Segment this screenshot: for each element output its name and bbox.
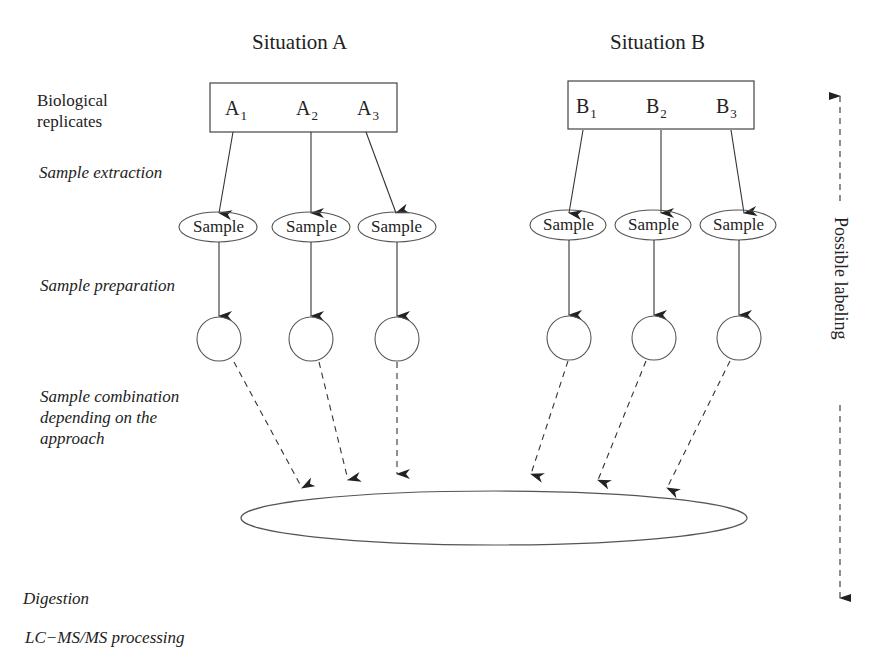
step-sample-combination: Sample combination depending on the appr… xyxy=(40,386,179,449)
sample-label-a2: Sample xyxy=(286,217,337,237)
sample-label-b1: Sample xyxy=(543,215,594,235)
step-biological-replicates: Biological replicates xyxy=(37,90,108,132)
situation-b-title: Situation B xyxy=(610,30,705,55)
replicate-a1: A1 xyxy=(225,97,247,124)
extraction-arrows-a xyxy=(219,132,396,213)
step-biological-replicates-line1: Biological xyxy=(37,90,108,111)
possible-labeling-label: Possible labeling xyxy=(830,217,851,340)
step-biological-replicates-line2: replicates xyxy=(37,111,108,132)
sample-label-a1: Sample xyxy=(193,217,244,237)
replicate-a2: A2 xyxy=(296,97,318,124)
step-lcms-processing: LC−MS/MS processing xyxy=(25,627,185,648)
diagram-canvas xyxy=(0,0,879,666)
step-digestion: Digestion xyxy=(23,588,89,609)
sample-ellipses xyxy=(179,210,776,242)
preparation-arrows xyxy=(219,240,739,316)
combination-arrows xyxy=(234,361,730,488)
prepared-sample-circles xyxy=(197,316,761,361)
situation-a-title: Situation A xyxy=(252,30,347,55)
replicate-a3: A3 xyxy=(357,97,379,124)
extraction-arrows-b xyxy=(569,130,744,213)
replicate-b3: B3 xyxy=(716,95,737,122)
replicate-b1: B1 xyxy=(576,95,597,122)
sample-label-a3: Sample xyxy=(371,217,422,237)
sample-label-b3: Sample xyxy=(713,215,764,235)
combined-sample-ellipse xyxy=(241,491,747,545)
step-sample-extraction: Sample extraction xyxy=(39,162,162,183)
step-sample-combination-line1: Sample combination xyxy=(40,386,179,407)
step-sample-combination-line2: depending on the xyxy=(40,407,179,428)
replicate-b2: B2 xyxy=(646,95,667,122)
step-sample-preparation: Sample preparation xyxy=(40,275,175,296)
step-sample-combination-line3: approach xyxy=(40,428,179,449)
sample-label-b2: Sample xyxy=(628,215,679,235)
